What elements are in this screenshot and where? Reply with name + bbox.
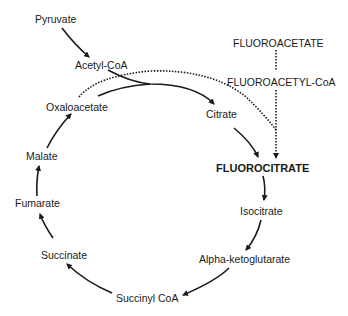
node-oxaloacetate: Oxaloacetate bbox=[46, 101, 108, 113]
node-isocitrate: Isocitrate bbox=[240, 205, 283, 217]
arrow-fluorocitrate-isocitrate bbox=[263, 176, 265, 200]
arrow-pyruvate-acetylcoa bbox=[62, 28, 89, 57]
node-pyruvate: Pyruvate bbox=[35, 13, 76, 25]
arrow-alpha-succinylcoa bbox=[183, 268, 229, 295]
node-succinate: Succinate bbox=[41, 249, 87, 261]
arrow-succinylcoa-succinate bbox=[67, 264, 112, 293]
node-fluoroacetyl-coa: FLUOROACETYL-CoA bbox=[227, 76, 336, 88]
node-succinyl-coa: Succinyl CoA bbox=[116, 292, 178, 304]
node-citrate: Citrate bbox=[206, 108, 237, 120]
arrow-succinate-fumarate bbox=[40, 214, 53, 238]
node-fluorocitrate: FLUOROCITRATE bbox=[216, 162, 309, 174]
arrow-malate-oxaloacetate bbox=[47, 114, 71, 148]
arrow-isocitrate-alpha bbox=[246, 220, 261, 250]
node-alpha-ketoglutarate: Alpha-ketoglutarate bbox=[199, 253, 290, 265]
arrow-oxaloacetate-citrate bbox=[98, 84, 150, 96]
arrow-fumarate-malate bbox=[37, 166, 39, 196]
node-fumarate: Fumarate bbox=[15, 197, 60, 209]
arrow-citrate-fluorocitrate bbox=[234, 128, 258, 157]
node-fluoroacetate: FLUOROACETATE bbox=[233, 37, 324, 49]
node-acetyl-coa: Acetyl-CoA bbox=[75, 59, 128, 71]
node-malate: Malate bbox=[26, 150, 58, 162]
